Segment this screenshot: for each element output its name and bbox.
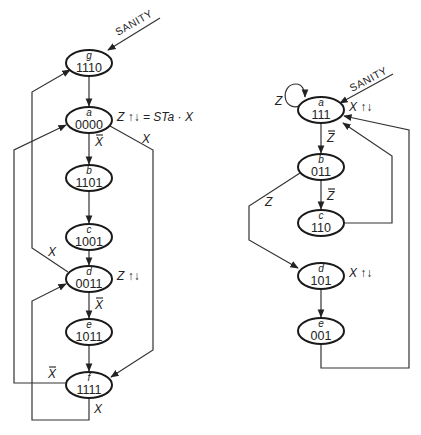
state-name: a — [318, 97, 324, 108]
state-output: Z ↑↓ — [116, 269, 140, 283]
right-sanity-label: SANITY — [347, 64, 389, 94]
state-code: 001 — [311, 329, 332, 343]
state-code: 110 — [311, 221, 331, 235]
state-e: e 001 — [298, 318, 344, 344]
state-name: e — [86, 319, 92, 330]
state-code: 0000 — [75, 118, 103, 132]
edge-label-f-to-d: X — [93, 402, 103, 416]
state-name: a — [86, 107, 92, 118]
state-code: 1101 — [76, 176, 103, 190]
state-name: g — [86, 50, 92, 61]
state-name: b — [86, 165, 92, 176]
edge-d-to-g — [32, 70, 70, 272]
right-state-diagram: SANITY Z Z Z Z a 111 X ↑↓ b — [249, 64, 409, 368]
edge-label-a-to-f: X — [141, 132, 151, 146]
edge-label-a-to-b: X — [94, 135, 104, 149]
left-sanity-label: SANITY — [113, 7, 154, 38]
state-code: 0011 — [76, 277, 103, 291]
edge-c-to-a — [343, 123, 392, 223]
edge-a-to-f — [110, 126, 153, 377]
state-b: b 011 — [298, 154, 344, 180]
state-code: 011 — [311, 165, 331, 179]
edge-label-a-to-a: Z — [274, 94, 283, 108]
edge-label-a-to-b: Z — [326, 131, 335, 145]
state-d: d 101 X ↑↓ — [298, 263, 372, 289]
state-code: 1110 — [76, 61, 102, 75]
edge-b-to-d — [249, 173, 300, 268]
state-code: 1001 — [75, 235, 103, 249]
state-output: X ↑↓ — [348, 266, 372, 280]
state-a: a 0000 Z ↑↓ = STa · X — [66, 107, 194, 133]
edge-label-d-to-g: X — [47, 245, 57, 259]
right-sanity-input: SANITY — [340, 64, 393, 103]
state-code: 111 — [311, 108, 330, 122]
state-e: e 1011 — [66, 319, 112, 345]
state-name: c — [87, 224, 92, 235]
state-g: g 1110 — [66, 50, 112, 76]
state-name: c — [319, 210, 324, 221]
state-code: 1011 — [76, 330, 103, 344]
state-f: f 1111 — [66, 372, 112, 398]
left-state-diagram: SANITY X X X X X X g 1110 — [14, 7, 194, 420]
state-output: Z ↑↓ = STa · X — [116, 110, 194, 124]
state-name: d — [318, 263, 324, 274]
state-name: e — [318, 318, 324, 329]
edge-label-f-to-a: X — [47, 367, 57, 381]
state-d: d 0011 Z ↑↓ — [66, 266, 140, 292]
state-code: 1111 — [76, 383, 101, 397]
edge-f-to-d — [32, 284, 89, 420]
state-diagrams: SANITY X X X X X X g 1110 — [0, 0, 421, 435]
state-code: 101 — [311, 274, 332, 288]
state-b: b 1101 — [66, 165, 112, 191]
state-c: c 110 — [298, 210, 344, 236]
state-name: b — [318, 154, 324, 165]
edge-label-d-to-e: X — [94, 298, 104, 312]
state-output: X ↑↓ — [348, 100, 372, 114]
state-name: d — [86, 266, 92, 277]
state-c: c 1001 — [66, 224, 112, 250]
left-sanity-input: SANITY — [108, 7, 160, 50]
edge-label-b-to-c: Z — [326, 189, 335, 203]
edge-label-b-to-d: Z — [264, 195, 273, 209]
